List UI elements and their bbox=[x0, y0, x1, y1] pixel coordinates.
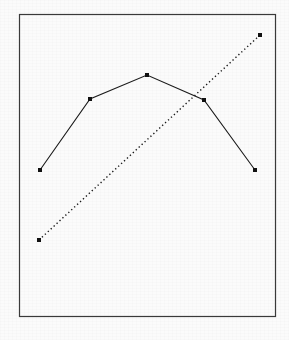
dotted-line-markers bbox=[37, 33, 262, 242]
data-point-marker bbox=[202, 98, 206, 102]
data-point-marker bbox=[88, 97, 92, 101]
plot-frame-border bbox=[20, 15, 276, 317]
solid-line-path bbox=[40, 75, 255, 170]
dotted-line-path bbox=[39, 35, 260, 240]
line-chart bbox=[0, 0, 289, 340]
data-point-marker bbox=[38, 168, 42, 172]
data-point-marker bbox=[258, 33, 262, 37]
data-point-marker bbox=[37, 238, 41, 242]
solid-line-markers bbox=[38, 73, 257, 172]
data-point-marker bbox=[145, 73, 149, 77]
data-point-marker bbox=[253, 168, 257, 172]
series-rising-trend-line bbox=[37, 33, 262, 242]
series-inverted-u-curve bbox=[38, 73, 257, 172]
figure-root bbox=[0, 0, 289, 340]
